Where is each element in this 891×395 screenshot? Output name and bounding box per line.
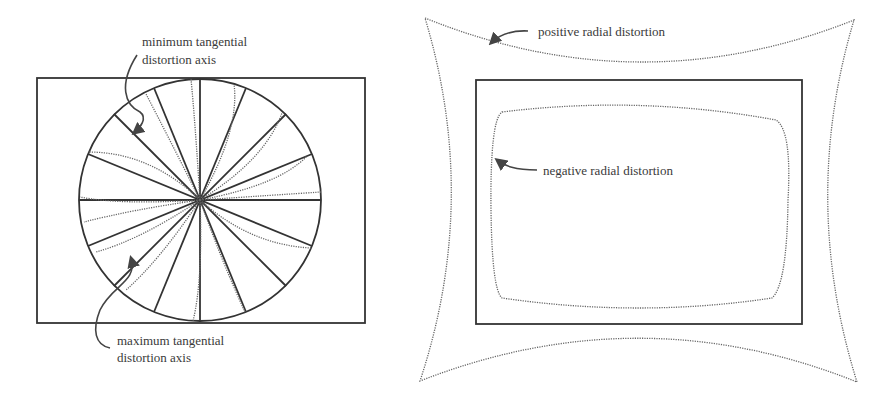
max-axis-label-line2: distortion axis — [117, 350, 191, 365]
min-axis-label-line1: minimum tangential — [142, 34, 247, 49]
distortion-diagram: minimum tangential distortion axis maxim… — [0, 0, 891, 395]
negative-distortion-label: negative radial distortion — [543, 163, 673, 178]
positive-distortion-arrow — [491, 31, 528, 43]
radial-distortion-figure: positive radial distortion negative radi… — [420, 18, 857, 382]
negative-distortion-curve — [491, 105, 789, 308]
negative-distortion-arrow — [497, 160, 537, 170]
tangential-distortion-figure: minimum tangential distortion axis maxim… — [37, 34, 365, 365]
max-axis-label-line1: maximum tangential — [117, 333, 225, 348]
min-axis-label-line2: distortion axis — [142, 52, 216, 67]
positive-distortion-curve — [420, 18, 857, 382]
positive-distortion-label: positive radial distortion — [538, 24, 666, 39]
